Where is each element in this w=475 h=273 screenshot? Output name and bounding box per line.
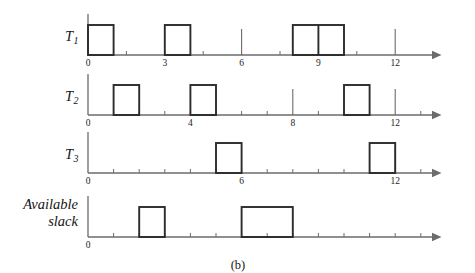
tick-label-t2-0: 0	[86, 118, 91, 128]
axis-arrowhead-slack	[432, 233, 442, 242]
tick-label-t1-9: 9	[316, 58, 321, 68]
task-bar-t1	[88, 25, 114, 55]
row-label-subscript-t1: 1	[74, 35, 79, 46]
tick-label-t2-8: 8	[290, 118, 295, 128]
row-label-subscript-t2: 2	[74, 95, 79, 106]
tick-label-slack-0: 0	[86, 240, 91, 250]
tick-label-t3-12: 12	[390, 176, 400, 186]
task-bar-t3	[370, 143, 396, 173]
tick-label-t2-4: 4	[188, 118, 193, 128]
row-label-t1: T1	[0, 28, 78, 45]
timeline-row-t3	[88, 132, 442, 177]
task-bar-slack	[139, 207, 165, 237]
task-bar-slack	[242, 207, 293, 237]
row-label-t3: T3	[0, 146, 78, 163]
task-bar-t3	[216, 143, 242, 173]
task-bar-t2	[114, 85, 140, 115]
figure-caption: (b)	[231, 258, 246, 273]
tick-label-t1-3: 3	[162, 58, 167, 68]
tick-label-t3-0: 0	[86, 176, 91, 186]
axis-arrowhead-t1	[432, 51, 442, 60]
row-label-subscript-t3: 3	[74, 153, 79, 164]
timeline-row-t1	[88, 14, 442, 59]
tick-label-t1-12: 12	[390, 58, 400, 68]
tick-label-t1-6: 6	[239, 58, 244, 68]
task-bar-t2	[190, 85, 216, 115]
tick-label-t1-0: 0	[86, 58, 91, 68]
row-label-t2: T2	[0, 88, 78, 105]
timeline-row-t2	[88, 74, 442, 119]
tick-label-t3-6: 6	[239, 176, 244, 186]
task-bar-t2	[344, 85, 370, 115]
axis-arrowhead-t3	[432, 169, 442, 178]
tick-label-t2-12: 12	[390, 118, 400, 128]
timeline-row-slack	[88, 196, 442, 241]
task-bar-t1	[165, 25, 191, 55]
row-label-slack: Availableslack	[0, 196, 78, 229]
axis-arrowhead-t2	[432, 111, 442, 120]
